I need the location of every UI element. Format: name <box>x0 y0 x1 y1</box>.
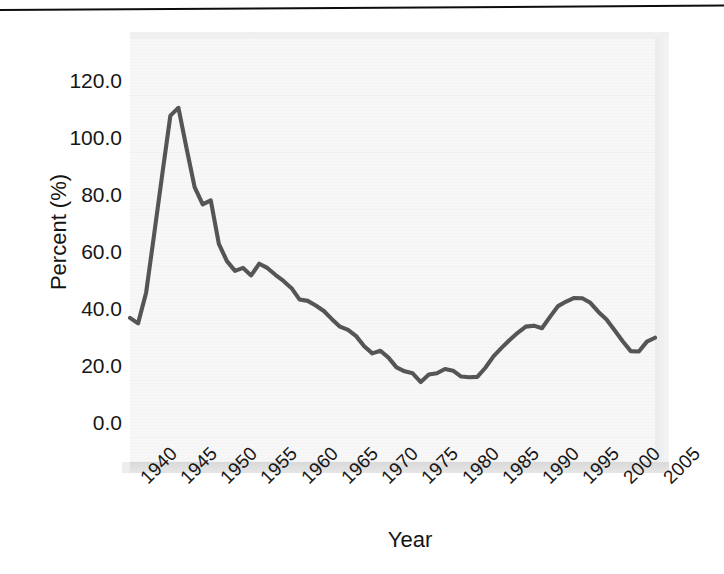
line-chart: 120.0 100.0 80.0 60.0 40.0 20.0 0.0 Perc… <box>0 14 724 570</box>
page-top-rule <box>0 5 724 11</box>
x-axis-title-text: Year <box>292 527 432 552</box>
plot-right-wall <box>655 38 669 472</box>
y-axis-title: Percent (%) <box>46 142 72 322</box>
y-tick-label: 20.0 <box>22 355 122 376</box>
x-axis-title: Year <box>0 527 724 553</box>
y-tick-label: 0.0 <box>22 412 122 433</box>
y-axis-labels: 120.0 100.0 80.0 60.0 40.0 20.0 0.0 Perc… <box>18 14 122 484</box>
y-tick-label: 40.0 <box>22 298 122 319</box>
chart-page: 120.0 100.0 80.0 60.0 40.0 20.0 0.0 Perc… <box>0 0 724 574</box>
y-tick-label: 100.0 <box>22 127 122 148</box>
y-tick-label: 120.0 <box>22 70 122 91</box>
series-line-percent <box>130 108 655 382</box>
y-tick-label: 80.0 <box>22 184 122 205</box>
series-layer <box>130 38 655 462</box>
y-tick-label: 60.0 <box>22 241 122 262</box>
